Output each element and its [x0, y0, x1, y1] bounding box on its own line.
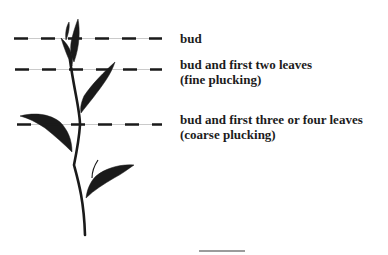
- label-coarse-plucking: bud and first three or four leaves (coar…: [180, 112, 363, 142]
- label-coarse-subtext: (coarse plucking): [180, 127, 363, 142]
- label-bud-text: bud: [180, 31, 202, 46]
- dash-markers: [14, 39, 162, 125]
- label-fine-text: bud and first two leaves: [180, 57, 312, 72]
- label-bud: bud: [180, 31, 202, 46]
- label-coarse-text: bud and first three or four leaves: [180, 112, 363, 127]
- main-stem: [70, 60, 85, 235]
- label-fine-plucking: bud and first two leaves (fine plucking): [180, 57, 312, 87]
- guide-lines: [14, 39, 162, 125]
- second-leaf-left: [20, 114, 72, 152]
- tea-shoot-plant: [20, 19, 134, 235]
- bud-leaf-left: [61, 38, 73, 66]
- label-fine-subtext: (fine plucking): [180, 72, 312, 87]
